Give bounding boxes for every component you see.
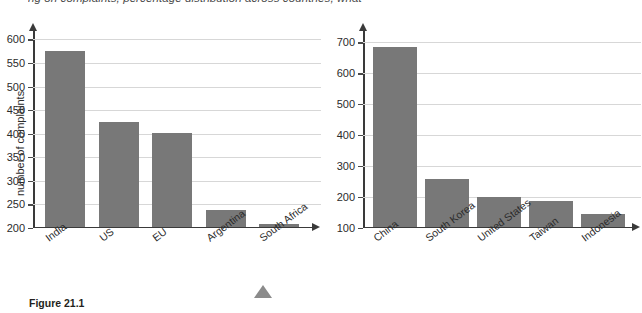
bar	[373, 47, 417, 226]
y-tick-label: 450	[7, 104, 25, 116]
plot-area-left: 200250300350400450500550600	[33, 30, 313, 228]
y-tick-label: 300	[7, 175, 25, 187]
figure-21-1: number of complaints 2002503003504004505…	[0, 0, 321, 313]
triangle-marker-icon	[254, 285, 272, 298]
figure-page: ng on complaints, percentage distributio…	[0, 0, 642, 313]
figure-21-2: number of complaints 1002003004005006007…	[321, 0, 642, 313]
y-tick-mark	[28, 228, 33, 229]
y-tick-label: 550	[7, 57, 25, 69]
y-tick-label: 100	[337, 222, 355, 234]
y-tick-label: 500	[337, 98, 355, 110]
plot-area-right: 100200300400500600700	[363, 30, 633, 228]
figure-caption-left: Figure 21.1	[29, 297, 84, 309]
y-tick-label: 250	[7, 198, 25, 210]
y-tick-label: 600	[7, 33, 25, 45]
y-tick-label: 300	[337, 160, 355, 172]
bar	[152, 133, 192, 227]
y-tick-label: 350	[7, 151, 25, 163]
bar-series-left	[33, 30, 313, 227]
y-tick-label: 200	[7, 222, 25, 234]
y-tick-label: 500	[7, 81, 25, 93]
y-tick-label: 600	[337, 67, 355, 79]
y-tick-label: 400	[7, 128, 25, 140]
y-tick-label: 700	[337, 36, 355, 48]
y-tick-label: 200	[337, 191, 355, 203]
y-tick-label: 400	[337, 129, 355, 141]
bar-series-right	[363, 30, 633, 227]
bar	[45, 51, 85, 227]
bar	[99, 122, 139, 227]
y-tick-mark	[358, 228, 363, 229]
